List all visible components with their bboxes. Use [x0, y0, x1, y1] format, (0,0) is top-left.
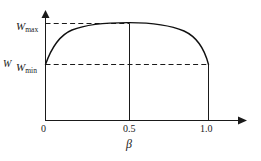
wmax-symbol: W [16, 20, 25, 32]
wmax-subscript: max [25, 25, 38, 34]
x-axis-arrowhead [238, 117, 247, 125]
x-tick-label-0-5: 0.5 [123, 124, 136, 134]
wmin-subscript: min [25, 66, 37, 75]
y-axis-title: W [3, 59, 11, 69]
x-tick-label-0: 0 [41, 124, 46, 134]
x-tick-label-1-0: 1.0 [200, 124, 213, 134]
wmax-level-label: Wmax [16, 17, 38, 34]
y-axis-arrowhead [42, 10, 50, 18]
w-beta-curve [46, 23, 209, 65]
x-axis-title: β [126, 138, 132, 150]
figure-container: W Wmax Wmin 0 0.5 1.0 β [0, 0, 261, 161]
wmin-symbol: W [16, 61, 25, 73]
wmin-level-label: Wmin [16, 58, 37, 75]
